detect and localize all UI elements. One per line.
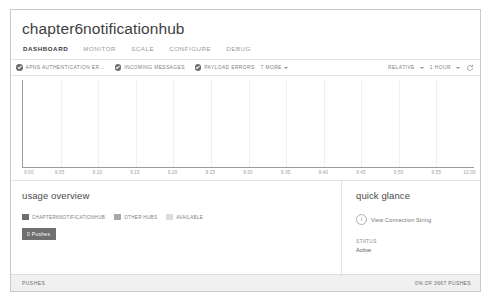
refresh-icon[interactable] — [466, 64, 474, 72]
legend-item-current-hub: CHAPTER6NOTIFICATIONHUB — [22, 214, 105, 220]
legend-label: OTHER HUBS — [124, 215, 157, 220]
range-duration-dropdown[interactable]: 1 HOUR — [430, 65, 460, 70]
chart-gridline — [211, 80, 212, 167]
x-axis-tick: 9:00 — [24, 170, 34, 175]
screenshot-root: chapter6notificationhub DASHBOARD MONITO… — [0, 0, 493, 300]
metric-chip-label: INCOMING MESSAGES — [124, 65, 185, 70]
tab-dashboard[interactable]: DASHBOARD — [23, 45, 68, 52]
chevron-down-icon — [456, 67, 460, 69]
x-axis-tick: 9:50 — [394, 170, 404, 175]
status-label: STATUS — [356, 239, 480, 244]
chevron-down-icon — [420, 67, 424, 69]
x-axis-tick: 9:55 — [431, 170, 441, 175]
range-duration-label: 1 HOUR — [430, 65, 451, 70]
legend-swatch — [22, 214, 29, 220]
chart-gridline — [249, 80, 250, 167]
chart-x-axis: 9:00 9:05 9:10 9:15 9:20 9:25 9:30 9:35 … — [22, 168, 474, 180]
push-count-badge: 0 Pushes — [22, 228, 56, 240]
legend-swatch — [114, 214, 121, 220]
metric-chip-label: PAYLOAD ERRORS — [204, 65, 254, 70]
checkmark-icon — [195, 64, 202, 71]
metric-chip-list: APNS AUTHENTICATION ER... INCOMING MESSA… — [16, 64, 388, 71]
metric-bar: APNS AUTHENTICATION ER... INCOMING MESSA… — [11, 59, 480, 76]
chart-gridline — [324, 80, 325, 167]
x-axis-tick: 9:25 — [205, 170, 215, 175]
x-axis-tick: 9:40 — [318, 170, 328, 175]
lower-panels: usage overview CHAPTER6NOTIFICATIONHUB O… — [11, 180, 480, 274]
chart-gridline — [61, 80, 62, 167]
quick-glance-title: quick glance — [356, 190, 480, 201]
metric-chip-incoming-messages[interactable]: INCOMING MESSAGES — [115, 64, 185, 71]
status-value: Active — [356, 247, 480, 253]
x-axis-tick: 9:20 — [168, 170, 178, 175]
info-icon: i — [356, 214, 367, 225]
legend-label: CHAPTER6NOTIFICATIONHUB — [32, 215, 105, 220]
quick-glance-panel: quick glance i View Connection String ST… — [341, 181, 480, 274]
range-mode-dropdown[interactable]: RELATIVE — [388, 65, 424, 70]
legend-item-available: AVAILABLE — [166, 214, 203, 220]
metric-chip-label: APNS AUTHENTICATION ER... — [26, 65, 105, 70]
x-axis-tick: 9:45 — [356, 170, 366, 175]
azure-portal-panel: chapter6notificationhub DASHBOARD MONITO… — [10, 9, 481, 292]
metrics-chart — [22, 76, 474, 168]
x-axis-tick: 9:30 — [243, 170, 253, 175]
legend-item-other-hubs: OTHER HUBS — [114, 214, 157, 220]
x-axis-tick: 9:10 — [92, 170, 102, 175]
chevron-down-icon — [284, 67, 288, 69]
time-range-controls: RELATIVE 1 HOUR — [388, 64, 474, 72]
tab-bar: DASHBOARD MONITOR SCALE CONFIGURE DEBUG — [11, 42, 480, 56]
legend-swatch — [166, 214, 173, 220]
chart-gridline — [136, 80, 137, 167]
tab-debug[interactable]: DEBUG — [226, 45, 251, 52]
chart-plot-area — [22, 80, 474, 168]
tab-scale[interactable]: SCALE — [131, 45, 154, 52]
more-metrics-dropdown[interactable]: 7 MORE — [261, 65, 288, 70]
view-connection-string-label: View Connection String — [371, 217, 431, 223]
status-bar-quota-label: 0% of 3667 PUSHES — [415, 280, 471, 286]
chart-gridline — [361, 80, 362, 167]
chart-gridline — [173, 80, 174, 167]
chart-gridline — [286, 80, 287, 167]
legend-label: AVAILABLE — [176, 215, 203, 220]
x-axis-tick: 9:35 — [281, 170, 291, 175]
usage-overview-panel: usage overview CHAPTER6NOTIFICATIONHUB O… — [11, 181, 341, 274]
checkmark-icon — [16, 64, 23, 71]
x-axis-tick: 9:15 — [130, 170, 140, 175]
metric-chip-payload-errors[interactable]: PAYLOAD ERRORS — [195, 64, 255, 71]
view-connection-string-link[interactable]: i View Connection String — [356, 214, 480, 225]
x-axis-tick: 9:05 — [55, 170, 65, 175]
usage-legend: CHAPTER6NOTIFICATIONHUB OTHER HUBS AVAIL… — [22, 214, 341, 220]
range-mode-label: RELATIVE — [388, 65, 415, 70]
usage-overview-title: usage overview — [22, 190, 341, 201]
tab-monitor[interactable]: MONITOR — [83, 45, 116, 52]
checkmark-icon — [115, 64, 122, 71]
metric-chip-apns-authentication-errors[interactable]: APNS AUTHENTICATION ER... — [16, 64, 105, 71]
status-bar: PUSHES 0% of 3667 PUSHES — [11, 274, 480, 291]
chart-gridline — [98, 80, 99, 167]
more-metrics-label: 7 MORE — [261, 65, 282, 70]
x-axis-tick: 10:00 — [463, 170, 476, 175]
page-title: chapter6notificationhub — [11, 10, 480, 42]
chart-gridline — [399, 80, 400, 167]
chart-gridline — [436, 80, 437, 167]
status-bar-left-label: PUSHES — [22, 280, 45, 286]
tab-configure[interactable]: CONFIGURE — [169, 45, 211, 52]
